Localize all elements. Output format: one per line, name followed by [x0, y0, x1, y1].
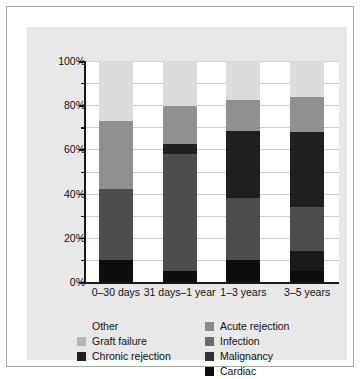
y-axis-tick-label: 40% [64, 188, 85, 200]
bar-segment [226, 198, 260, 260]
bar-segment [163, 154, 197, 271]
x-axis-tick-label: 0–30 days [92, 286, 140, 298]
y-axis-tick-label: 80% [64, 99, 85, 111]
legend-swatch-icon [205, 367, 214, 376]
x-axis-tick-label: 31 days–1 year [144, 286, 216, 298]
bar-segment [290, 97, 324, 131]
bar-stack [290, 61, 324, 282]
legend-item-label: Graft failure [92, 336, 147, 347]
plot-area [84, 61, 339, 282]
x-axis-tick-label: 1–3 years [220, 286, 266, 298]
bar-segment [290, 61, 324, 97]
y-axis-tick-label: 20% [64, 232, 85, 244]
legend-swatch-icon [205, 337, 214, 346]
bar-segment [290, 132, 324, 207]
bar-segment [99, 121, 133, 190]
legend-item-label: Chronic rejection [92, 351, 171, 362]
chart-panel: 0%20%40%60%80%100% 0–30 days31 days–1 ye… [27, 27, 347, 360]
bar-segment [99, 260, 133, 282]
bar-segment [290, 271, 324, 282]
bar-segment [290, 207, 324, 251]
legend-item-label: Other [92, 321, 118, 332]
y-axis-tick-label: 0% [70, 276, 85, 288]
legend-item: Cardiac [205, 364, 289, 379]
y-tick-minor [81, 172, 84, 173]
legend-item: Infection [205, 334, 289, 349]
bar-segment [163, 144, 197, 154]
legend-item: Acute rejection [205, 319, 289, 334]
bar-segment [226, 61, 260, 100]
legend-swatch-icon [77, 337, 86, 346]
legend-item: Other [77, 319, 171, 334]
legend-swatch-icon [77, 322, 86, 331]
y-tick-minor [81, 260, 84, 261]
legend-item-label: Malignancy [220, 351, 273, 362]
legend-column-left: OtherGraft failureChronic rejection [77, 319, 171, 364]
chart-legend: OtherGraft failureChronic rejection Acut… [27, 319, 347, 377]
legend-item: Graft failure [77, 334, 171, 349]
y-axis-line [84, 61, 86, 282]
bar-stack [226, 61, 260, 282]
legend-item-label: Infection [220, 336, 260, 347]
legend-column-right: Acute rejectionInfectionMalignancyCardia… [205, 319, 289, 379]
legend-swatch-icon [205, 322, 214, 331]
figure-frame: 0%20%40%60%80%100% 0–30 days31 days–1 ye… [6, 6, 354, 367]
legend-item: Chronic rejection [77, 349, 171, 364]
legend-item-label: Acute rejection [220, 321, 289, 332]
y-tick-minor [81, 216, 84, 217]
bar-segment [226, 131, 260, 198]
bar-segment [226, 260, 260, 282]
legend-swatch-icon [77, 352, 86, 361]
y-axis-tick-label: 100% [58, 55, 85, 67]
bar-segment [163, 106, 197, 144]
legend-item: Malignancy [205, 349, 289, 364]
legend-item-label: Cardiac [220, 366, 256, 377]
y-tick-minor [81, 83, 84, 84]
bar-segment [163, 61, 197, 106]
bar-stack [163, 61, 197, 282]
y-axis-tick-label: 60% [64, 143, 85, 155]
bar-stack [99, 61, 133, 282]
bar-segment [99, 61, 133, 121]
bar-segment [226, 100, 260, 131]
y-tick-minor [81, 127, 84, 128]
x-axis-line [84, 282, 339, 284]
bar-segment [290, 251, 324, 271]
bar-segment [163, 271, 197, 282]
legend-swatch-icon [205, 352, 214, 361]
x-axis-tick-label: 3–5 years [284, 286, 330, 298]
bar-segment [99, 189, 133, 260]
